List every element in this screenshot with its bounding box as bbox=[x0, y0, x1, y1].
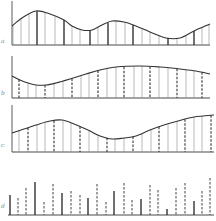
panel-d bbox=[8, 178, 214, 215]
panel-label-a: a bbox=[1, 37, 5, 44]
panel-a bbox=[12, 1, 210, 45]
panel-c bbox=[12, 105, 214, 152]
panel-label-c: c bbox=[1, 141, 4, 148]
sampling-figure bbox=[0, 0, 216, 221]
signal-curve bbox=[12, 115, 214, 139]
panel-b bbox=[12, 56, 210, 98]
signal-curve bbox=[12, 11, 210, 39]
signal-curve bbox=[12, 66, 210, 85]
panel-label-b: b bbox=[1, 89, 5, 96]
panel-label-d: d bbox=[1, 202, 5, 209]
